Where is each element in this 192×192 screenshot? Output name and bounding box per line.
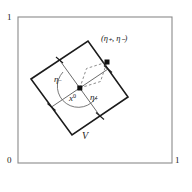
center-point-marker bbox=[77, 86, 82, 91]
axis-label-bottom-left: 0 bbox=[7, 156, 12, 165]
eta-minus-subscript: − bbox=[58, 78, 61, 84]
eta-pair-label: (η₊, η₋) bbox=[101, 34, 127, 43]
figure-container: 1 0 1 (η₊, η₋) η− η+ x0 V bbox=[0, 0, 192, 192]
center-point-label: x0 bbox=[69, 93, 76, 103]
center-point-superscript: 0 bbox=[73, 93, 76, 99]
eta-point-marker bbox=[105, 60, 110, 65]
eta-minus-label: η− bbox=[54, 75, 62, 84]
region-label-V: V bbox=[82, 131, 88, 141]
eta-plus-label: η+ bbox=[90, 93, 98, 102]
axis-label-top-left: 1 bbox=[7, 13, 12, 22]
axis-label-bottom-right: 1 bbox=[175, 156, 180, 165]
eta-plus-subscript: + bbox=[94, 96, 97, 102]
unit-square-outline bbox=[18, 17, 172, 163]
